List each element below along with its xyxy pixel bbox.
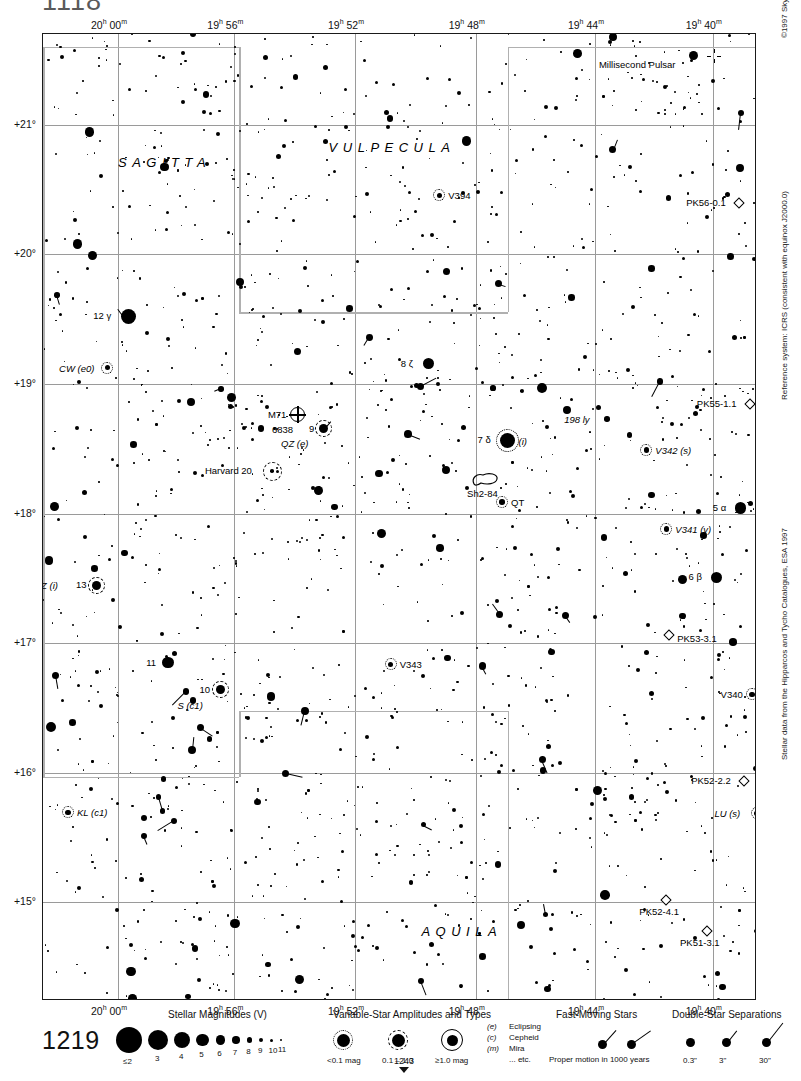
star-dot	[148, 793, 150, 795]
planetary-nebula-icon[interactable]	[733, 198, 744, 209]
planetary-nebula-icon[interactable]	[744, 399, 755, 410]
named-star[interactable]	[121, 309, 136, 324]
star-dot	[729, 657, 731, 659]
star-dot	[740, 320, 742, 322]
star-dot	[140, 528, 142, 530]
star-dot	[201, 398, 203, 400]
star-dot	[515, 159, 518, 162]
star-dot	[634, 801, 636, 803]
double-star-separation-line	[729, 1031, 737, 1041]
star-dot	[378, 862, 380, 864]
star-dot	[747, 393, 749, 395]
variable-sample-dot	[337, 1034, 350, 1047]
star-dot	[675, 493, 677, 495]
star-dot	[413, 670, 415, 672]
star-dot	[654, 814, 656, 816]
star-dot	[591, 846, 593, 848]
planetary-nebula-icon[interactable]	[664, 630, 675, 641]
page-marker-arrow-icon	[399, 1067, 409, 1073]
pulsar-label: Millisecond Pulsar	[599, 60, 676, 70]
nebula-label: Sh2-84	[467, 489, 498, 499]
star-dot	[77, 886, 81, 890]
star-dot	[555, 606, 558, 609]
star-dot	[467, 665, 469, 667]
star-dot	[701, 395, 703, 397]
globular-cluster-icon[interactable]	[290, 407, 305, 422]
named-star[interactable]	[735, 502, 747, 514]
star-dot	[531, 469, 533, 471]
star-dot	[381, 390, 383, 392]
planetary-nebula-icon[interactable]	[738, 776, 749, 787]
planetary-nebula-label: PK51-3.1	[680, 938, 720, 948]
named-star[interactable]	[162, 657, 174, 669]
star-dot	[399, 181, 401, 183]
star-dot	[670, 422, 674, 426]
star-dot	[82, 80, 84, 82]
star-dot	[524, 630, 526, 632]
star-dot	[483, 706, 485, 708]
star-dot	[207, 444, 209, 446]
star-dot	[228, 954, 230, 956]
star-dot	[631, 569, 633, 571]
star-dot	[242, 426, 246, 430]
star-dot	[487, 604, 489, 606]
star-dot	[230, 66, 232, 68]
star-dot	[625, 722, 628, 725]
variable-star-label: QT	[511, 498, 524, 508]
star-dot	[72, 624, 74, 626]
star-dot	[268, 974, 270, 976]
star-dot	[437, 377, 439, 379]
star-dot	[753, 202, 755, 204]
star-dot	[76, 964, 78, 966]
star-dot	[628, 665, 630, 667]
star-dot	[491, 206, 493, 208]
star-dot	[535, 686, 537, 688]
star-dot	[690, 97, 692, 99]
star-dot	[401, 919, 404, 922]
star-dot	[688, 92, 690, 94]
star-dot	[286, 416, 288, 418]
star-dot	[586, 515, 588, 517]
star-dot	[213, 983, 215, 985]
planetary-nebula-icon[interactable]	[701, 926, 712, 937]
star-dot	[373, 381, 375, 383]
named-star[interactable]	[711, 572, 723, 584]
star-dot	[558, 564, 560, 566]
star-dot	[282, 144, 286, 148]
star-dot	[470, 37, 472, 39]
star-dot	[711, 817, 713, 819]
pulsar-icon[interactable]	[707, 49, 721, 63]
star-chart[interactable]: 12 γ8 ζ97 δ(i)5 α6 β131110V394CW (e0)QZ …	[42, 33, 756, 1000]
star-dot	[640, 153, 642, 155]
star-dot	[226, 946, 228, 948]
star-dot	[648, 265, 655, 272]
star-dot	[170, 488, 173, 491]
named-star[interactable]	[423, 358, 435, 370]
emission-nebula-icon[interactable]	[471, 471, 501, 489]
star-dot	[714, 454, 716, 456]
star-dot	[154, 515, 156, 517]
star-dot	[532, 148, 534, 150]
star-dot	[380, 564, 384, 568]
variable-star-label: V340	[721, 690, 743, 700]
star-dot	[365, 735, 369, 739]
star-dot	[342, 630, 344, 632]
star-dot	[520, 263, 522, 265]
page-number-top: 1118	[42, 0, 102, 17]
magnitude-sample-dot	[247, 1037, 253, 1043]
star-dot	[537, 576, 539, 578]
star-dot	[207, 736, 212, 741]
star-dot	[227, 701, 229, 703]
star-dot	[688, 417, 690, 419]
star-dot	[367, 437, 369, 439]
boundary-segment	[239, 711, 241, 777]
star-dot	[315, 519, 317, 521]
star-dot	[553, 869, 557, 873]
star-dot	[256, 499, 259, 502]
planetary-nebula-icon[interactable]	[661, 895, 672, 906]
star-dot	[284, 119, 287, 122]
star-dot	[90, 429, 92, 431]
star-dot	[235, 562, 237, 564]
star-dot	[111, 458, 114, 461]
star-dot	[753, 508, 755, 510]
